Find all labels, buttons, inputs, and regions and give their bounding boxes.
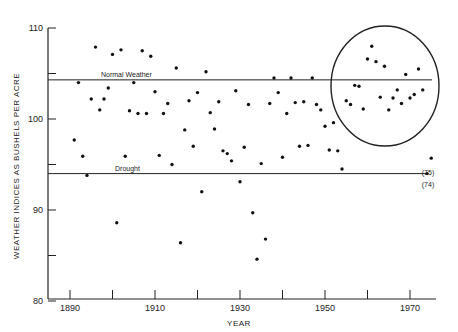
data-point <box>73 138 76 141</box>
data-point <box>379 95 382 98</box>
data-point <box>272 76 275 79</box>
data-point <box>81 155 84 158</box>
x-tick-label: 1930 <box>230 303 250 313</box>
data-point <box>85 174 88 177</box>
data-point <box>370 45 373 48</box>
data-point <box>400 102 403 105</box>
drought-label: Drought <box>115 165 140 173</box>
data-point <box>111 53 114 56</box>
annotation-74: (74) <box>422 181 434 189</box>
reference-lines: Normal WeatherDrought <box>48 71 432 174</box>
data-point <box>124 155 127 158</box>
data-point <box>264 237 267 240</box>
data-point <box>353 84 356 87</box>
data-point <box>285 112 288 115</box>
y-tick-label: 110 <box>29 23 43 33</box>
data-point <box>187 99 190 102</box>
data-point <box>357 85 360 88</box>
data-point <box>149 55 152 58</box>
y-tick-label: 90 <box>33 205 43 215</box>
data-point <box>234 89 237 92</box>
data-point <box>158 154 161 157</box>
x-axis-title: YEAR <box>227 319 251 328</box>
data-point <box>315 103 318 106</box>
data-point <box>421 88 424 91</box>
data-point <box>417 67 420 70</box>
data-point <box>387 108 390 111</box>
data-point <box>115 221 118 224</box>
data-point <box>298 145 301 148</box>
x-axis: 18901910193019501970 <box>48 290 436 313</box>
data-point <box>209 111 212 114</box>
data-point <box>119 48 122 51</box>
data-point <box>243 146 246 149</box>
data-point <box>302 100 305 103</box>
data-point <box>277 91 280 94</box>
x-tick-label: 1970 <box>400 303 420 313</box>
data-point <box>90 97 93 100</box>
data-point <box>145 112 148 115</box>
data-point <box>340 167 343 170</box>
highlight-circle <box>331 26 439 146</box>
annotation-75: (75) <box>422 169 434 177</box>
data-point <box>128 109 131 112</box>
data-point <box>366 57 369 60</box>
data-point <box>306 144 309 147</box>
data-point <box>175 66 178 69</box>
data-point <box>238 180 241 183</box>
data-point <box>166 102 169 105</box>
data-point <box>221 149 224 152</box>
data-point <box>192 145 195 148</box>
data-point <box>268 102 271 105</box>
data-point <box>94 45 97 48</box>
scatter-chart: 8090100110 18901910193019501970 Normal W… <box>0 0 458 332</box>
data-point <box>345 99 348 102</box>
data-point <box>404 73 407 76</box>
data-point <box>183 128 186 131</box>
data-point <box>374 60 377 63</box>
y-tick-label: 80 <box>33 296 43 306</box>
data-point <box>204 70 207 73</box>
data-point <box>217 100 220 103</box>
data-point <box>102 97 105 100</box>
data-point <box>179 241 182 244</box>
data-point <box>213 127 216 130</box>
data-point <box>332 121 335 124</box>
data-point <box>336 149 339 152</box>
x-tick-label: 1910 <box>145 303 165 313</box>
data-point <box>328 148 331 151</box>
y-axis: 8090100110 <box>28 23 56 306</box>
data-point <box>162 112 165 115</box>
data-point <box>294 101 297 104</box>
data-point <box>251 211 254 214</box>
data-point <box>362 107 365 110</box>
data-point <box>281 156 284 159</box>
y-axis-title: WEATHER INDICES AS BUSHELS PER ACRE <box>12 73 21 259</box>
data-point <box>230 159 233 162</box>
data-point <box>77 81 80 84</box>
data-point <box>383 65 386 68</box>
data-point <box>430 156 433 159</box>
x-tick-label: 1890 <box>60 303 80 313</box>
data-point <box>107 86 110 89</box>
data-point <box>260 162 263 165</box>
annotations: (75)(74) <box>331 26 439 189</box>
data-point <box>200 190 203 193</box>
x-tick-label: 1950 <box>315 303 335 313</box>
data-point <box>408 96 411 99</box>
data-point <box>226 152 229 155</box>
data-point <box>255 257 258 260</box>
normal-weather-label: Normal Weather <box>101 71 153 78</box>
data-point <box>196 91 199 94</box>
data-point <box>170 163 173 166</box>
y-tick-label: 100 <box>28 114 43 124</box>
data-point <box>153 90 156 93</box>
data-point <box>132 81 135 84</box>
data-point <box>289 76 292 79</box>
data-point <box>136 112 139 115</box>
data-point <box>391 96 394 99</box>
data-point <box>396 88 399 91</box>
data-point <box>247 103 250 106</box>
data-point <box>141 49 144 52</box>
data-point <box>319 108 322 111</box>
